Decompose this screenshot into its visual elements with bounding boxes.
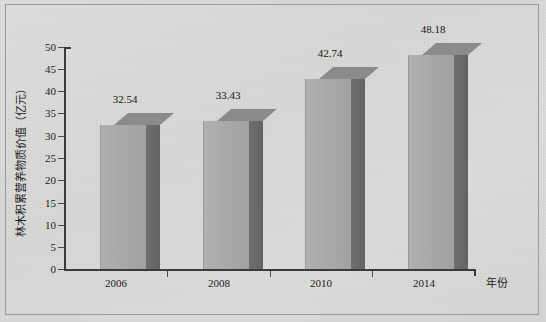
bar-2006-top-face [114,113,174,125]
y-tick-label-40: 40 [30,86,56,97]
x-axis-title: 年份 [486,277,508,289]
scanned-chart-page: 林木积累营养物质价值（亿元） 50 45 40 35 30 25 20 15 1… [0,0,546,322]
y-tick-label-0: 0 [30,264,56,275]
bar-2014-front-face [408,55,454,269]
y-tick-label-5: 5 [30,242,56,253]
x-tick-label-2008: 2008 [184,277,254,289]
y-tick-label-30: 30 [30,131,56,142]
bar-2006-front-face [100,125,146,269]
bar-2010-top-face [319,67,379,79]
bar-2008-top-face [217,109,277,121]
x-tick-3 [372,271,373,277]
bar-2010 [305,47,365,269]
x-tick-label-2014: 2014 [389,277,459,289]
bar-value-label-2008: 33.43 [188,89,268,101]
bar-2006-side-face [146,125,160,269]
bar-2008-front-face [203,121,249,269]
y-tick-label-15: 15 [30,198,56,209]
x-tick-label-2006: 2006 [81,277,151,289]
y-tick-label-10: 10 [30,220,56,231]
y-tick-label-25: 25 [30,153,56,164]
y-tick-40 [58,91,64,92]
bar-2014 [408,47,468,269]
bar-value-label-2014: 48.18 [393,23,473,35]
bar-2014-side-face [454,55,468,269]
bar-2008 [203,47,263,269]
y-tick-50 [58,47,64,48]
y-tick-label-20: 20 [30,175,56,186]
bar-2008-side-face [249,121,263,269]
y-tick-10 [58,225,64,226]
y-tick-35 [58,113,64,114]
bar-value-label-2010: 42.74 [290,47,370,59]
y-tick-label-45: 45 [30,64,56,75]
y-tick-45 [58,69,64,70]
y-tick-label-50: 50 [30,42,56,53]
y-tick-15 [58,203,64,204]
bar-value-label-2006: 32.54 [85,93,165,105]
x-tick-2 [270,271,271,277]
y-tick-25 [58,158,64,159]
bar-2006 [100,47,160,269]
x-tick-label-2010: 2010 [286,277,356,289]
y-tick-label-35: 35 [30,108,56,119]
bar-chart-plot-area: 林木积累营养物质价值（亿元） 50 45 40 35 30 25 20 15 1… [0,0,546,322]
y-tick-30 [58,136,64,137]
y-tick-20 [58,180,64,181]
bar-2010-side-face [351,79,365,269]
x-tick-1 [167,271,168,277]
x-axis-end-cap [474,269,476,276]
y-tick-label-group: 50 45 40 35 30 25 20 15 10 5 0 [26,0,56,322]
bar-2010-front-face [305,79,351,269]
y-tick-5 [58,247,64,248]
y-axis-top-cap [64,47,71,49]
bar-2014-top-face [422,43,482,55]
y-axis-line [64,47,66,271]
